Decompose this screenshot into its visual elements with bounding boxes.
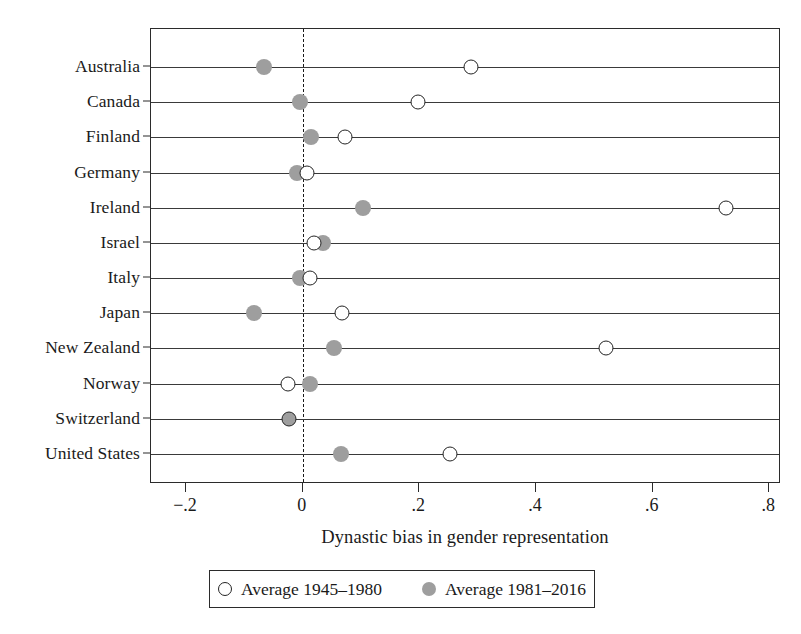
x-tick xyxy=(302,483,303,492)
category-row-line xyxy=(151,173,779,174)
category-row-line xyxy=(151,137,779,138)
category-row-line xyxy=(151,384,779,385)
plot-area xyxy=(150,28,780,483)
data-point-avg-1945-1980 xyxy=(334,306,349,321)
data-point-avg-1945-1980 xyxy=(280,376,295,391)
x-tick-label: .8 xyxy=(762,495,776,516)
category-row-line xyxy=(151,102,779,103)
x-tick-label: −.2 xyxy=(173,495,197,516)
x-tick xyxy=(768,483,769,492)
x-tick xyxy=(535,483,536,492)
category-label-australia: Australia xyxy=(2,58,150,75)
data-point-avg-1945-1980 xyxy=(307,235,322,250)
x-tick-label: .2 xyxy=(412,495,426,516)
category-row-line xyxy=(151,348,779,349)
legend-label: Average 1981–2016 xyxy=(445,579,586,600)
legend: Average 1945–1980 Average 1981–2016 xyxy=(209,570,595,608)
category-axis: AustraliaCanadaFinlandGermanyIrelandIsra… xyxy=(0,28,150,483)
legend-item-1945-1980: Average 1945–1980 xyxy=(218,579,382,600)
data-point-avg-1945-1980 xyxy=(338,130,353,145)
category-label-united-states: United States xyxy=(2,445,150,462)
category-row-line xyxy=(151,419,779,420)
category-label-japan: Japan xyxy=(2,304,150,321)
filled-circle-icon xyxy=(422,582,436,596)
category-label-canada: Canada xyxy=(2,93,150,110)
legend-label: Average 1945–1980 xyxy=(241,579,382,600)
category-row-line xyxy=(151,454,779,455)
category-row-line xyxy=(151,278,779,279)
data-point-avg-1945-1980 xyxy=(300,165,315,180)
x-tick-label: 0 xyxy=(297,495,306,516)
category-label-israel: Israel xyxy=(2,233,150,250)
x-tick xyxy=(652,483,653,492)
data-point-avg-1981-2016 xyxy=(256,59,272,75)
x-tick xyxy=(185,483,186,492)
data-point-avg-1981-2016 xyxy=(281,411,296,426)
category-label-italy: Italy xyxy=(2,269,150,286)
category-row-line xyxy=(151,208,779,209)
data-point-avg-1945-1980 xyxy=(411,95,426,110)
x-tick-label: .6 xyxy=(645,495,659,516)
category-label-switzerland: Switzerland xyxy=(2,409,150,426)
category-label-finland: Finland xyxy=(2,128,150,145)
dot-plot-figure: AustraliaCanadaFinlandGermanyIrelandIsra… xyxy=(0,0,801,634)
category-label-new-zealand: New Zealand xyxy=(2,339,150,356)
category-row-line xyxy=(151,243,779,244)
data-point-avg-1981-2016 xyxy=(292,94,308,110)
x-tick-label: .4 xyxy=(528,495,542,516)
data-point-avg-1981-2016 xyxy=(302,376,318,392)
data-point-avg-1945-1980 xyxy=(599,341,614,356)
data-point-avg-1981-2016 xyxy=(326,340,342,356)
data-point-avg-1945-1980 xyxy=(303,271,318,286)
data-point-avg-1981-2016 xyxy=(333,446,349,462)
legend-item-1981-2016: Average 1981–2016 xyxy=(422,579,586,600)
open-circle-icon xyxy=(218,582,232,596)
data-point-avg-1945-1980 xyxy=(443,447,458,462)
x-axis-title: Dynastic bias in gender representation xyxy=(150,527,780,548)
x-tick xyxy=(418,483,419,492)
data-point-avg-1981-2016 xyxy=(303,129,319,145)
category-label-norway: Norway xyxy=(2,374,150,391)
data-point-avg-1945-1980 xyxy=(463,60,478,75)
data-point-avg-1945-1980 xyxy=(718,200,733,215)
category-label-germany: Germany xyxy=(2,163,150,180)
data-point-avg-1981-2016 xyxy=(246,305,262,321)
x-axis: −.20.2.4.6.8 xyxy=(150,483,780,523)
category-label-ireland: Ireland xyxy=(2,198,150,215)
data-point-avg-1981-2016 xyxy=(355,200,371,216)
